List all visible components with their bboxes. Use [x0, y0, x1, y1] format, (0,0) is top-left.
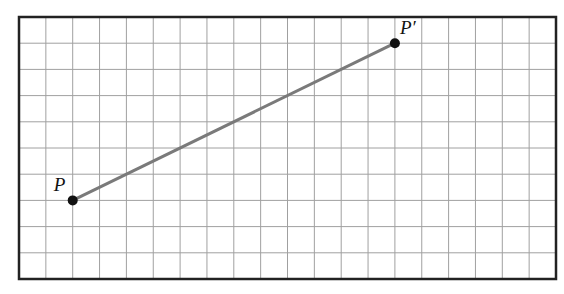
point-p [68, 195, 78, 205]
grid-lines [19, 17, 556, 279]
grid-diagram [0, 0, 564, 294]
point-p-prime [390, 38, 400, 48]
label-p: P [54, 174, 66, 196]
label-p-prime: P′ [400, 17, 416, 39]
